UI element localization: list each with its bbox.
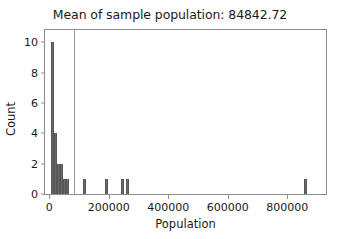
y-tick-label: 10: [24, 36, 38, 49]
y-tick-label: 8: [31, 66, 38, 79]
x-tick-label: 800000: [266, 201, 308, 214]
mean-line-layer: [45, 30, 326, 194]
y-tick-label: 6: [31, 96, 38, 109]
x-tick-mark: [228, 195, 229, 199]
histogram-figure: Mean of sample population: 84842.72 0246…: [0, 0, 340, 239]
y-tick-label: 0: [31, 188, 38, 201]
x-tick-mark: [168, 195, 169, 199]
x-axis-label: Population: [44, 217, 327, 231]
x-tick-label: 0: [46, 201, 53, 214]
x-tick-mark: [49, 195, 50, 199]
x-tick-label: 400000: [147, 201, 189, 214]
x-axis: 0200000400000600000800000 Population: [44, 195, 327, 239]
x-tick-mark: [287, 195, 288, 199]
plot-area: [44, 29, 327, 195]
y-tick-label: 4: [31, 127, 38, 140]
chart-title: Mean of sample population: 84842.72: [0, 7, 340, 22]
y-axis-label: Count: [4, 89, 18, 149]
mean-line-marker: [74, 30, 75, 194]
y-tick-label: 2: [31, 157, 38, 170]
x-tick-mark: [109, 195, 110, 199]
y-axis: 0246810 Count: [0, 29, 44, 195]
x-tick-label: 600000: [207, 201, 249, 214]
x-tick-label: 200000: [88, 201, 130, 214]
